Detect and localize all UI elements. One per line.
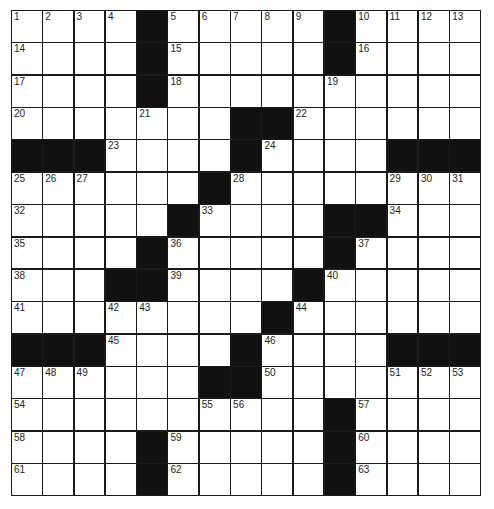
grid-cell[interactable] [106,205,136,236]
grid-cell[interactable] [106,399,136,430]
grid-cell[interactable]: 1 [12,11,42,42]
grid-cell[interactable] [294,173,324,204]
grid-cell[interactable] [325,367,355,398]
grid-cell[interactable]: 4 [106,11,136,42]
grid-cell[interactable]: 57 [356,399,386,430]
grid-cell[interactable] [325,302,355,333]
grid-cell[interactable]: 48 [43,367,73,398]
grid-cell[interactable] [200,464,230,495]
grid-cell[interactable] [356,270,386,301]
grid-cell[interactable] [419,302,449,333]
grid-cell[interactable] [75,464,105,495]
grid-cell[interactable] [325,335,355,366]
grid-cell[interactable] [262,399,292,430]
grid-cell[interactable] [356,76,386,107]
grid-cell[interactable] [75,432,105,463]
grid-cell[interactable]: 9 [294,11,324,42]
grid-cell[interactable]: 27 [75,173,105,204]
grid-cell[interactable] [294,464,324,495]
grid-cell[interactable] [419,399,449,430]
grid-cell[interactable]: 50 [262,367,292,398]
grid-cell[interactable]: 41 [12,302,42,333]
grid-cell[interactable] [200,43,230,74]
grid-cell[interactable]: 32 [12,205,42,236]
grid-cell[interactable] [419,108,449,139]
grid-cell[interactable]: 5 [168,11,198,42]
grid-cell[interactable] [262,432,292,463]
grid-cell[interactable] [388,108,418,139]
grid-cell[interactable] [106,432,136,463]
grid-cell[interactable]: 51 [388,367,418,398]
grid-cell[interactable] [106,43,136,74]
grid-cell[interactable]: 31 [450,173,480,204]
grid-cell[interactable] [137,140,167,171]
grid-cell[interactable] [388,43,418,74]
grid-cell[interactable] [137,335,167,366]
grid-cell[interactable]: 42 [106,302,136,333]
grid-cell[interactable] [231,238,261,269]
grid-cell[interactable] [262,205,292,236]
grid-cell[interactable] [262,43,292,74]
grid-cell[interactable] [294,432,324,463]
grid-cell[interactable] [231,270,261,301]
grid-cell[interactable]: 10 [356,11,386,42]
grid-cell[interactable] [231,205,261,236]
grid-cell[interactable] [200,140,230,171]
grid-cell[interactable]: 21 [137,108,167,139]
grid-cell[interactable] [200,238,230,269]
grid-cell[interactable] [43,399,73,430]
grid-cell[interactable] [231,464,261,495]
grid-cell[interactable] [43,270,73,301]
grid-cell[interactable] [262,270,292,301]
grid-cell[interactable]: 55 [200,399,230,430]
grid-cell[interactable] [356,335,386,366]
grid-cell[interactable] [356,173,386,204]
grid-cell[interactable] [388,302,418,333]
grid-cell[interactable] [200,108,230,139]
grid-cell[interactable]: 62 [168,464,198,495]
grid-cell[interactable] [294,205,324,236]
grid-cell[interactable]: 46 [262,335,292,366]
grid-cell[interactable] [43,238,73,269]
grid-cell[interactable] [168,108,198,139]
grid-cell[interactable] [106,76,136,107]
grid-cell[interactable]: 3 [75,11,105,42]
grid-cell[interactable] [294,76,324,107]
grid-cell[interactable]: 18 [168,76,198,107]
grid-cell[interactable]: 40 [325,270,355,301]
grid-cell[interactable]: 36 [168,238,198,269]
grid-cell[interactable] [137,399,167,430]
grid-cell[interactable]: 53 [450,367,480,398]
grid-cell[interactable]: 20 [12,108,42,139]
grid-cell[interactable] [75,238,105,269]
grid-cell[interactable]: 38 [12,270,42,301]
grid-cell[interactable] [43,108,73,139]
grid-cell[interactable]: 45 [106,335,136,366]
grid-cell[interactable] [106,464,136,495]
grid-cell[interactable]: 56 [231,399,261,430]
grid-cell[interactable]: 43 [137,302,167,333]
grid-cell[interactable] [106,173,136,204]
grid-cell[interactable]: 63 [356,464,386,495]
grid-cell[interactable]: 58 [12,432,42,463]
grid-cell[interactable] [231,432,261,463]
grid-cell[interactable]: 34 [388,205,418,236]
grid-cell[interactable] [43,464,73,495]
grid-cell[interactable] [294,238,324,269]
grid-cell[interactable] [75,399,105,430]
grid-cell[interactable] [200,302,230,333]
grid-cell[interactable]: 61 [12,464,42,495]
grid-cell[interactable] [388,238,418,269]
grid-cell[interactable]: 37 [356,238,386,269]
grid-cell[interactable]: 2 [43,11,73,42]
grid-cell[interactable] [450,302,480,333]
grid-cell[interactable] [43,302,73,333]
grid-cell[interactable] [450,432,480,463]
grid-cell[interactable] [419,238,449,269]
grid-cell[interactable] [388,464,418,495]
grid-cell[interactable]: 7 [231,11,261,42]
grid-cell[interactable]: 19 [325,76,355,107]
grid-cell[interactable]: 15 [168,43,198,74]
grid-cell[interactable] [325,140,355,171]
grid-cell[interactable] [419,432,449,463]
